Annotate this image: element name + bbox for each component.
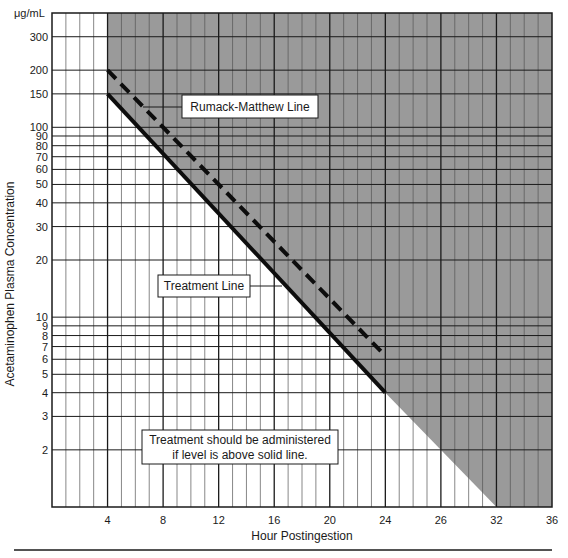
acetaminophen-nomogram-chart: 30020015010090807060504030201098765432 4… [0,0,568,558]
x-tick-label: 24 [379,514,391,526]
y-axis-title: Acetaminophen Plasma Concentration [3,182,17,387]
x-axis-title: Hour Postingestion [251,529,352,543]
x-tick-label: 36 [546,514,558,526]
y-tick-label: 7 [42,341,48,353]
x-tick-label: 32 [490,514,502,526]
y-tick-label: 200 [30,64,48,76]
treatment-label: Treatment Line [164,279,245,293]
treatment-note-line-1: Treatment should be administered [149,433,331,447]
x-tick-label: 20 [324,514,336,526]
y-tick-label: 20 [36,254,48,266]
y-tick-label: 6 [42,353,48,365]
y-tick-label: 2 [42,444,48,456]
y-tick-label: 70 [36,151,48,163]
y-axis-ticks: 30020015010090807060504030201098765432 [30,31,48,456]
y-tick-label: 30 [36,221,48,233]
y-tick-label: 3 [42,410,48,422]
rumack-label: Rumack-Matthew Line [190,100,310,114]
y-unit-label: μg/mL [14,7,45,19]
y-tick-label: 4 [42,387,48,399]
y-tick-label: 5 [42,368,48,380]
x-tick-label: 26 [435,514,447,526]
x-tick-label: 12 [213,514,225,526]
y-tick-label: 40 [36,197,48,209]
treatment-note-line-2: if level is above solid line. [172,448,307,462]
y-tick-label: 50 [36,178,48,190]
y-tick-label: 300 [30,31,48,43]
y-tick-label: 60 [36,163,48,175]
x-axis-ticks: 4812162024263236 [104,514,558,526]
x-tick-label: 16 [268,514,280,526]
x-tick-label: 4 [104,514,110,526]
y-tick-label: 150 [30,88,48,100]
x-tick-label: 8 [160,514,166,526]
